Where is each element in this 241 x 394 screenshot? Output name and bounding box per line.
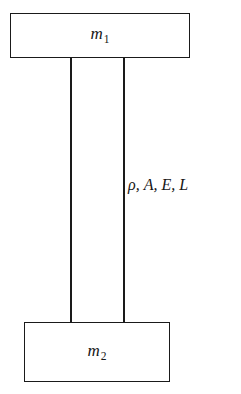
bar-mass-system-diagram: m1 ρ, A, E, L m2 [0, 0, 241, 394]
bottom-mass-block: m2 [24, 322, 170, 382]
bottom-mass-label: m2 [88, 342, 107, 362]
bottom-mass-subscript: 2 [101, 350, 107, 362]
top-mass-symbol: m [91, 24, 103, 43]
bar-right-edge-line [123, 57, 125, 323]
bottom-mass-symbol: m [88, 341, 100, 360]
top-mass-subscript: 1 [104, 33, 110, 45]
top-mass-block: m1 [10, 13, 190, 58]
bar-left-edge-line [70, 57, 72, 323]
bar-properties-label: ρ, A, E, L [128, 177, 188, 193]
top-mass-label: m1 [91, 25, 110, 45]
